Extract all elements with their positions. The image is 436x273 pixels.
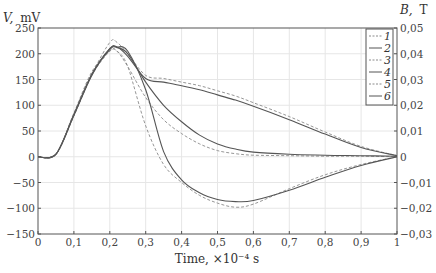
x-axis-title: Time, ×10⁻⁴ s [175, 252, 259, 266]
right-y-tick-label: −0,03 [400, 228, 432, 240]
x-tick-label: 0,8 [317, 236, 334, 248]
right-y-tick-label: −0,01 [400, 177, 432, 189]
left-y-tick-label: 200 [15, 48, 35, 60]
left-y-axis-ticks: 250200150100500−50−100−150 [6, 22, 41, 240]
left-axis-title: V, mV [3, 11, 41, 25]
right-y-tick-label: 0,04 [400, 48, 424, 60]
left-y-tick-label: −150 [6, 228, 35, 240]
x-tick-label: 0,9 [353, 236, 370, 248]
legend-label: 6 [384, 90, 391, 103]
left-y-tick-label: −50 [13, 177, 35, 189]
right-y-tick-label: −0,02 [400, 202, 432, 214]
x-tick-label: 0,2 [101, 236, 118, 248]
legend: 123456 [366, 29, 393, 105]
line-chart: 00,10,20,30,40,50,60,70,80,91 2502001501… [0, 0, 436, 273]
right-axis-title: B, T [399, 3, 427, 17]
left-y-tick-label: 150 [15, 74, 35, 86]
x-tick-label: 0,5 [209, 236, 226, 248]
right-y-axis-ticks: 0,050,040,030,020,010−0,01−0,02−0,03 [394, 22, 432, 240]
x-tick-label: 0 [35, 236, 42, 248]
left-y-tick-label: −100 [6, 202, 35, 214]
x-tick-label: 0,4 [173, 236, 190, 248]
left-y-tick-label: 100 [15, 99, 35, 111]
right-y-tick-label: 0,01 [400, 125, 423, 137]
left-y-tick-label: 50 [22, 125, 35, 137]
x-tick-label: 0,3 [137, 236, 154, 248]
right-y-tick-label: 0,05 [400, 22, 423, 34]
right-y-tick-label: 0 [400, 151, 407, 163]
left-y-tick-label: 0 [28, 151, 35, 163]
x-tick-label: 0,1 [66, 236, 83, 248]
x-tick-label: 0,6 [245, 236, 262, 248]
x-tick-label: 0,7 [281, 236, 298, 248]
right-y-tick-label: 0,02 [400, 99, 423, 111]
right-y-tick-label: 0,03 [400, 74, 423, 86]
